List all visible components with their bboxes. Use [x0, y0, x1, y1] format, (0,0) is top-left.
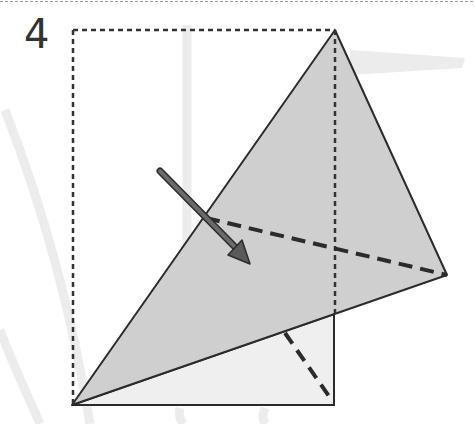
fold-diagram — [0, 0, 475, 424]
step-number: 4 — [24, 14, 49, 54]
background-streak — [350, 50, 465, 75]
